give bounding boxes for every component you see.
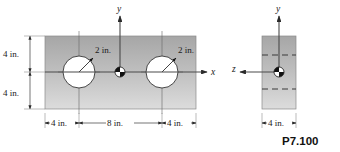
left-horizontal-dim-label: 4 in. xyxy=(51,118,67,128)
side-thickness-dim-label: 4 in. xyxy=(268,118,284,128)
front-view-group: 2 in. 2 in. x y 4 in. 4 in. xyxy=(3,4,216,128)
right-hole-radius-label: 2 in. xyxy=(178,45,194,55)
side-y-axis-label: y xyxy=(275,4,281,14)
left-hole-radius-label: 2 in. xyxy=(95,45,111,55)
figure-drawing-canvas: 2 in. 2 in. x y 4 in. 4 in. xyxy=(0,0,340,152)
right-horizontal-dim-label: 4 in. xyxy=(167,118,183,128)
side-view-group: y z 4 in. xyxy=(231,4,296,128)
figure-label: P7.100 xyxy=(282,135,318,147)
side-z-axis-label: z xyxy=(231,64,236,74)
middle-horizontal-dim-label: 8 in. xyxy=(107,118,123,128)
upper-vertical-dim-label: 4 in. xyxy=(3,49,19,59)
side-centroid-marker xyxy=(274,67,284,77)
lower-vertical-dim-label: 4 in. xyxy=(3,88,19,98)
x-axis-label: x xyxy=(210,67,216,77)
y-axis-label: y xyxy=(116,4,122,14)
centroid-marker xyxy=(115,67,125,77)
engineering-figure: 2 in. 2 in. x y 4 in. 4 in. xyxy=(0,0,340,152)
